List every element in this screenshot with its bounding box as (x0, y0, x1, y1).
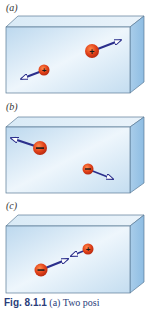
negative-charge (83, 164, 94, 175)
positive-charge: + (83, 244, 94, 255)
panel-label-b: (b) (6, 101, 18, 112)
negative-charge (35, 264, 48, 277)
box-top-face (6, 215, 144, 226)
positive-charge: + (85, 44, 99, 58)
svg-text:+: + (86, 245, 91, 254)
box-side-face (130, 16, 144, 93)
figure-diagram: + + (0, 0, 156, 310)
box-front-face (6, 127, 130, 193)
figure-number: Fig. 8.1.1 (4, 297, 47, 308)
figure-caption: Fig. 8.1.1 (a) Two posi (4, 297, 100, 308)
svg-text:+: + (89, 47, 94, 57)
box-side-face (130, 117, 144, 193)
box-top-face (6, 117, 144, 127)
figure: + + (0, 0, 156, 310)
panel-a: + + (6, 16, 144, 93)
negative-charge (33, 141, 47, 155)
caption-text: (a) Two posi (49, 297, 99, 308)
panel-c: + (6, 215, 144, 293)
box-front-face (6, 27, 130, 93)
svg-text:+: + (42, 66, 47, 75)
positive-charge: + (39, 65, 50, 76)
panel-label-a: (a) (6, 2, 18, 13)
panel-label-c: (c) (6, 200, 17, 211)
panel-b (6, 117, 144, 193)
box-top-face (6, 16, 144, 27)
box-side-face (130, 215, 144, 293)
